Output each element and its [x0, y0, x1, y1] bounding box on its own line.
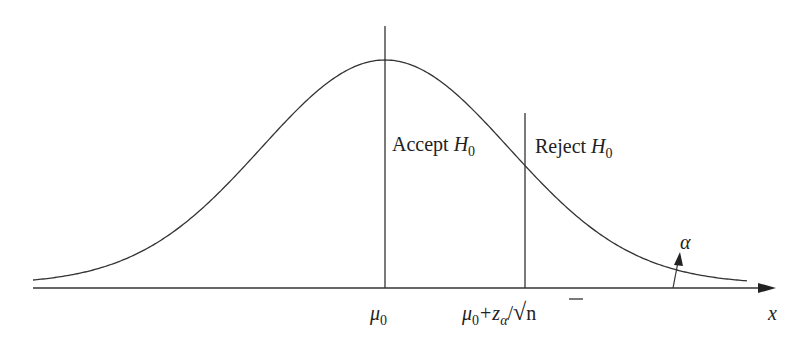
hypothesis-test-diagram: Accept H0 Reject H0 α μ0 μ0+zα/√n x	[0, 0, 798, 356]
reject-h0-label: Reject H0	[535, 135, 613, 161]
alpha-label: α	[680, 231, 691, 253]
x-axis-arrowhead	[758, 283, 776, 293]
x-axis-label: x	[767, 302, 777, 324]
critical-value-tick-label: μ0+zα/√n	[461, 299, 536, 328]
normal-density-curve	[33, 60, 747, 281]
mu0-tick-label: μ0	[369, 302, 387, 328]
alpha-arrowhead-icon	[674, 252, 683, 266]
alpha-arrow-shaft	[673, 262, 678, 288]
accept-h0-label: Accept H0	[392, 133, 475, 159]
